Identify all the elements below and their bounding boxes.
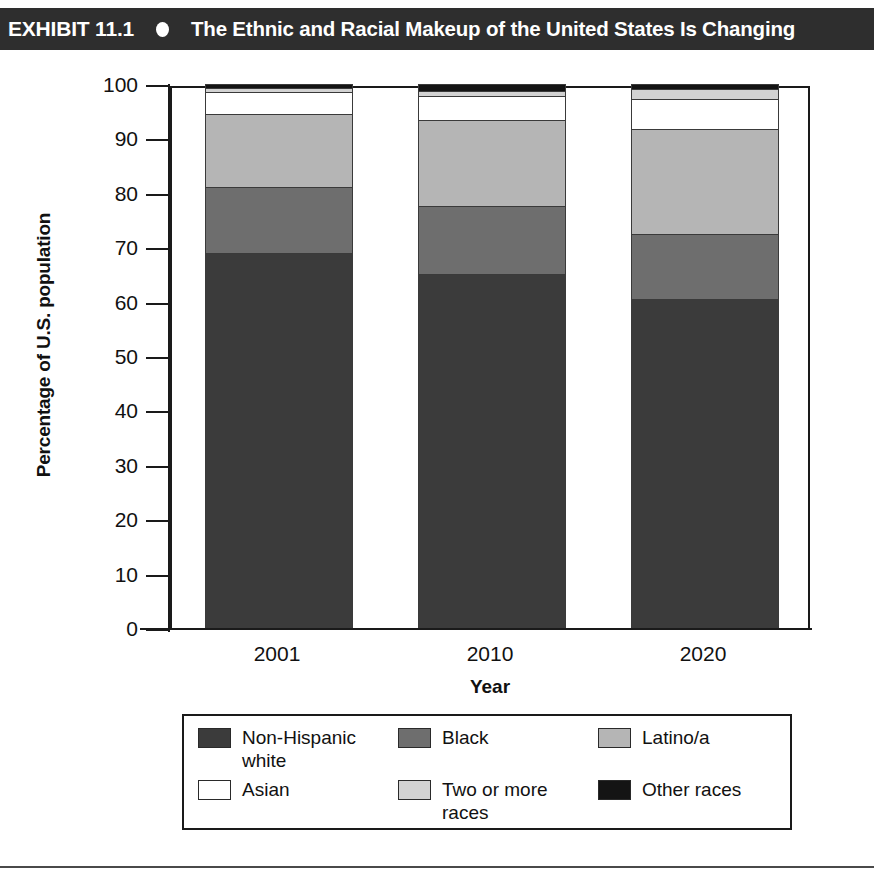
bar-segment-asian [205, 92, 353, 114]
bar-segment-asian [418, 96, 566, 120]
legend-swatch-icon [398, 780, 431, 800]
plot-area [170, 86, 810, 630]
legend-label: Other races [642, 778, 741, 801]
exhibit-title: The Ethnic and Racial Makeup of the Unit… [191, 17, 795, 41]
bar-segment-two-or-more-races [631, 89, 779, 99]
chart-legend: Non-Hispanic whiteBlackLatino/aAsianTwo … [182, 714, 792, 830]
bar-segment-non-hispanic-white [418, 274, 566, 628]
legend-swatch-icon [598, 728, 631, 748]
bar-2020 [631, 84, 779, 628]
y-axis-tick [146, 520, 168, 522]
y-axis-tick-value: 10 [78, 564, 138, 585]
exhibit-header-bar: EXHIBIT 11.1 The Ethnic and Racial Makeu… [0, 8, 874, 50]
legend-swatch-icon [598, 780, 631, 800]
y-axis-tick-label: 80 [78, 183, 138, 205]
y-axis-tick [146, 139, 168, 141]
bar-2010 [418, 84, 566, 628]
y-axis-tick-label: 0 [78, 618, 138, 640]
x-axis-label-2001: 2001 [177, 642, 377, 666]
y-axis-tick-label: 100 [78, 74, 138, 96]
legend-label: Two or more races [442, 778, 574, 824]
y-axis-tick [146, 303, 168, 305]
y-axis-tick [146, 85, 168, 87]
y-axis-tick-label: 30 [78, 455, 138, 477]
y-axis-tick-label: 20 [78, 509, 138, 531]
bar-2001 [205, 84, 353, 628]
bullet-dot-icon [156, 22, 169, 37]
y-axis-tick [146, 248, 168, 250]
y-axis-tick-label: 90 [78, 128, 138, 150]
legend-item-latino-a[interactable]: Latino/a [598, 726, 778, 778]
y-axis-tick-value: 40 [78, 400, 138, 421]
y-axis-tick-label: 40 [78, 400, 138, 422]
y-axis-tick [146, 194, 168, 196]
bar-segment-latino-a [631, 129, 779, 234]
legend-label: Black [442, 726, 488, 749]
y-axis-line [168, 84, 170, 632]
bar-segment-latino-a [205, 114, 353, 187]
y-axis-tick-value: 30 [78, 455, 138, 476]
legend-label: Non-Hispanic white [242, 726, 374, 772]
y-axis-tick [146, 466, 168, 468]
legend-label: Asian [242, 778, 290, 801]
y-axis-tick-label: 10 [78, 564, 138, 586]
y-axis-tick [146, 575, 168, 577]
y-axis-tick-value: 70 [78, 237, 138, 258]
y-axis-tick-value: 60 [78, 292, 138, 313]
y-axis-tick [146, 357, 168, 359]
bar-segment-black [418, 206, 566, 274]
x-axis-label-2020: 2020 [603, 642, 803, 666]
y-axis-tick-value: 50 [78, 346, 138, 367]
x-axis-label-2010: 2010 [390, 642, 590, 666]
legend-swatch-icon [398, 728, 431, 748]
bar-segment-latino-a [418, 120, 566, 206]
legend-grid: Non-Hispanic whiteBlackLatino/aAsianTwo … [198, 726, 778, 830]
legend-swatch-icon [198, 728, 231, 748]
legend-item-two-or-more-races[interactable]: Two or more races [398, 778, 598, 830]
y-axis-tick-label: 50 [78, 346, 138, 368]
x-axis-line [140, 628, 812, 630]
y-axis-tick-label: 60 [78, 292, 138, 314]
bar-segment-non-hispanic-white [631, 299, 779, 628]
y-axis-tick [146, 629, 168, 631]
legend-item-other-races[interactable]: Other races [598, 778, 778, 830]
legend-label: Latino/a [642, 726, 710, 749]
y-axis-tick-value: 20 [78, 509, 138, 530]
bar-segment-non-hispanic-white [205, 253, 353, 628]
bar-segment-asian [631, 99, 779, 129]
y-axis-tick-value: 80 [78, 183, 138, 204]
y-axis-tick-value: 100 [78, 74, 138, 95]
y-axis-title: Percentage of U.S. population [33, 105, 55, 585]
exhibit-number-label: EXHIBIT 11.1 [8, 17, 134, 41]
legend-swatch-icon [198, 780, 231, 800]
legend-item-black[interactable]: Black [398, 726, 598, 778]
y-axis-tick-value: 0 [78, 618, 138, 639]
y-axis-tick [146, 411, 168, 413]
bar-segment-black [205, 187, 353, 252]
bottom-divider [0, 866, 874, 868]
chart-container: Percentage of U.S. population 0102030405… [0, 50, 874, 650]
y-axis-tick-value: 90 [78, 128, 138, 149]
bar-segment-black [631, 234, 779, 299]
legend-item-asian[interactable]: Asian [198, 778, 398, 830]
x-axis-title: Year [170, 676, 810, 698]
y-axis-tick-label: 70 [78, 237, 138, 259]
legend-item-non-hispanic-white[interactable]: Non-Hispanic white [198, 726, 398, 778]
